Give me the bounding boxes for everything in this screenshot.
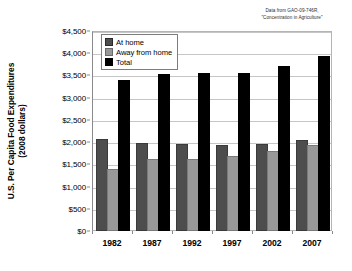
legend-swatch-away-icon bbox=[105, 48, 113, 56]
gridline bbox=[93, 76, 331, 77]
x-axis-tick-label-1992: 1992 bbox=[182, 238, 201, 248]
source-note-line-1: Data from GAO-09-746R, bbox=[238, 7, 346, 14]
legend-swatch-total-icon bbox=[105, 58, 113, 66]
y-axis-tick-label: $0 bbox=[77, 227, 86, 236]
x-axis-tickmark bbox=[132, 231, 133, 234]
x-axis-tick-label-1987: 1987 bbox=[142, 238, 161, 248]
gridline bbox=[93, 165, 331, 166]
x-axis-tickmark bbox=[292, 231, 293, 234]
gridline bbox=[93, 143, 331, 144]
x-axis-tickmarks bbox=[92, 231, 332, 235]
legend-label-total: Total bbox=[116, 58, 132, 67]
legend-label-away: Away from home bbox=[116, 48, 172, 57]
y-axis-tick-label: $1,000 bbox=[62, 182, 86, 191]
y-axis-tick-label: $4,000 bbox=[62, 49, 86, 58]
x-axis-tickmark bbox=[212, 231, 213, 234]
y-axis-tickmark bbox=[87, 164, 90, 165]
gridline bbox=[93, 188, 331, 189]
y-axis-tickmark bbox=[87, 75, 90, 76]
y-axis-title: U.S. Per Capita Food Expenditures (2008 … bbox=[0, 26, 34, 236]
y-axis-tick-label: $2,500 bbox=[62, 115, 86, 124]
legend-label-athome: At home bbox=[116, 38, 144, 47]
x-axis-tickmark bbox=[92, 231, 93, 234]
gridline bbox=[93, 99, 331, 100]
legend-swatch-athome-icon bbox=[105, 38, 113, 46]
x-axis-tickmark bbox=[332, 231, 333, 234]
x-axis-tick-label-1982: 1982 bbox=[102, 238, 121, 248]
legend-item-away: Away from home bbox=[105, 47, 172, 57]
y-axis-tickmark bbox=[87, 97, 90, 98]
gridline bbox=[93, 210, 331, 211]
x-axis-tick-label-2007: 2007 bbox=[302, 238, 321, 248]
y-axis-tick-label: $500 bbox=[69, 204, 86, 213]
y-axis-tick-label: $3,500 bbox=[62, 71, 86, 80]
gridline bbox=[93, 121, 331, 122]
chart-legend: At homeAway from homeTotal bbox=[101, 34, 178, 70]
source-note: Data from GAO-09-746R, "Concentration in… bbox=[238, 7, 346, 21]
y-axis-tick-label: $4,500 bbox=[62, 27, 86, 36]
y-axis-tick-label: $1,500 bbox=[62, 160, 86, 169]
y-axis-tick-label: $3,000 bbox=[62, 93, 86, 102]
y-axis-tickmark bbox=[87, 142, 90, 143]
x-axis-tick-labels: 198219871992199720022007 bbox=[92, 238, 332, 252]
y-axis-title-line-1: U.S. Per Capita Food Expenditures bbox=[6, 63, 17, 200]
x-axis-tick-label-1997: 1997 bbox=[222, 238, 241, 248]
y-axis-tickmark bbox=[87, 119, 90, 120]
y-axis-tickmark bbox=[87, 208, 90, 209]
y-axis-tickmark bbox=[87, 53, 90, 54]
x-axis-tickmark bbox=[252, 231, 253, 234]
x-axis-tick-label-2002: 2002 bbox=[262, 238, 281, 248]
y-axis-tick-labels: $4,500$4,000$3,500$3,000$2,500$2,000$1,5… bbox=[34, 31, 90, 231]
legend-item-total: Total bbox=[105, 57, 172, 67]
x-axis-tickmark bbox=[172, 231, 173, 234]
y-axis-tickmark bbox=[87, 31, 90, 32]
y-axis-tickmark bbox=[87, 231, 90, 232]
source-note-line-2: "Concentration in Agriculture" bbox=[238, 14, 346, 21]
legend-item-athome: At home bbox=[105, 37, 172, 47]
gridline bbox=[93, 32, 331, 33]
y-axis-title-line-2: (2008 dollars) bbox=[17, 63, 28, 200]
y-axis-tick-label: $2,000 bbox=[62, 138, 86, 147]
y-axis-tickmark bbox=[87, 186, 90, 187]
